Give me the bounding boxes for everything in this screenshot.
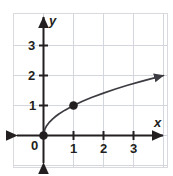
x-tick-label-1: 1 (70, 142, 77, 155)
coordinate-plane (0, 0, 173, 176)
y-tick-label-1: 1 (29, 99, 36, 112)
y-axis-label: y (49, 14, 56, 27)
x-tick-label-2: 2 (100, 142, 107, 155)
graph-figure: 0 1 2 3 1 2 3 y x (0, 0, 173, 176)
x-axis-label: x (154, 116, 161, 129)
y-tick-label-3: 3 (28, 39, 35, 52)
unit-point (69, 101, 78, 110)
y-tick-label-2: 2 (28, 69, 35, 82)
origin-point (39, 131, 48, 140)
origin-tick-label: 0 (31, 139, 38, 152)
x-tick-label-3: 3 (130, 142, 137, 155)
